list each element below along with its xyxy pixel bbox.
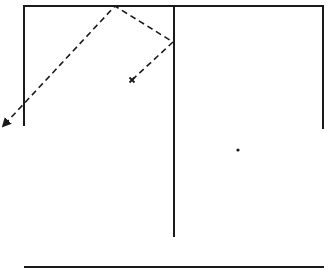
markers xyxy=(130,78,240,152)
dot-icon xyxy=(236,148,239,151)
dashed-reflection-path xyxy=(5,6,173,124)
x-mark-icon xyxy=(130,78,135,83)
reflection-diagram xyxy=(0,0,333,270)
walls xyxy=(24,6,323,267)
